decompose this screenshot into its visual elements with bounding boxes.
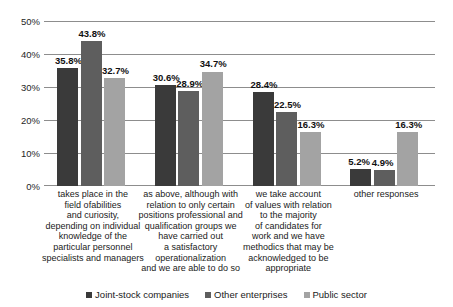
gridline-30 — [44, 87, 435, 88]
y-axis-tick-30: 30% — [2, 83, 40, 93]
bar — [155, 85, 176, 186]
bar — [57, 68, 78, 186]
bar — [178, 91, 199, 186]
bar-value-label: 16.3% — [298, 120, 325, 130]
legend-swatch-icon — [205, 292, 211, 298]
bar-value-label: 34.7% — [200, 59, 227, 69]
category-label-line: appropriate — [234, 263, 344, 274]
chart-legend: Joint-stock companiesOther enterprisesPu… — [0, 288, 453, 302]
bar-chart: 50% 40% 30% 20% 10% 0% 35.8%43.8%32.7%30… — [0, 0, 453, 307]
bar-value-label: 35.8% — [55, 56, 82, 66]
x-axis-category-label: takes place in thefield ofabilitiesand c… — [38, 189, 148, 263]
category-label-line: and we are able to do so — [136, 263, 246, 274]
legend-item[interactable]: Other enterprises — [205, 290, 287, 300]
legend-item[interactable]: Public sector — [304, 290, 367, 300]
category-label-line: field ofabilities — [38, 200, 148, 211]
category-label-line: to the majority — [234, 210, 344, 221]
legend-item[interactable]: Joint-stock companies — [86, 290, 189, 300]
legend-label: Public sector — [313, 290, 367, 300]
bar-value-label: 22.5% — [274, 100, 301, 110]
legend-swatch-icon — [304, 292, 310, 298]
legend-label: Joint-stock companies — [95, 290, 189, 300]
x-axis-category-labels: takes place in thefield ofabilitiesand c… — [44, 189, 435, 281]
bar — [202, 72, 223, 187]
bar — [397, 132, 418, 186]
gridline-40 — [44, 54, 435, 55]
bar — [81, 41, 102, 186]
category-label-line: of values with relation — [234, 200, 344, 211]
category-label-line: positions professional and — [136, 210, 246, 221]
gridline-20 — [44, 120, 435, 121]
category-label-line: as above, although with — [136, 189, 246, 200]
category-label-line: depending on individual — [38, 221, 148, 232]
y-axis-tick-40: 40% — [2, 50, 40, 60]
legend-swatch-icon — [86, 292, 92, 298]
y-axis-tick-50: 50% — [2, 17, 40, 27]
bar — [104, 78, 125, 186]
bar — [374, 170, 395, 186]
category-label-line: specialists and managers — [38, 253, 148, 264]
category-label-line: particular personnel — [38, 242, 148, 253]
x-axis-category-label: other responses — [331, 189, 441, 200]
category-label-line: acknowledged to be — [234, 253, 344, 264]
bar-value-label: 32.7% — [102, 66, 129, 76]
x-axis-category-label: we take accountof values with relationto… — [234, 189, 344, 274]
category-label-line: we take account — [234, 189, 344, 200]
category-label-line: have carried out — [136, 231, 246, 242]
bar-value-label: 43.8% — [79, 29, 106, 39]
bar — [300, 132, 321, 186]
bar — [350, 169, 371, 186]
x-axis-category-label: as above, although withrelation to only … — [136, 189, 246, 274]
bar — [253, 92, 274, 186]
bar-value-label: 4.9% — [372, 158, 394, 168]
category-label-line: takes place in the — [38, 189, 148, 200]
category-label-line: qualification groups we — [136, 221, 246, 232]
bar-value-label: 28.9% — [176, 79, 203, 89]
bar-value-label: 16.3% — [395, 120, 422, 130]
legend-label: Other enterprises — [214, 290, 287, 300]
bar — [276, 112, 297, 186]
category-label-line: and curiosity, — [38, 210, 148, 221]
y-axis-tick-10: 10% — [2, 149, 40, 159]
category-label-line: knowledge of the — [38, 231, 148, 242]
bar-value-label: 5.2% — [348, 157, 370, 167]
category-label-line: relation to only certain — [136, 200, 246, 211]
category-label-line: a satisfactory — [136, 242, 246, 253]
category-label-line: of candidates for — [234, 221, 344, 232]
category-label-line: operationalization — [136, 253, 246, 264]
bar-value-label: 28.4% — [251, 80, 278, 90]
plot-area: 35.8%43.8%32.7%30.6%28.9%34.7%28.4%22.5%… — [44, 21, 435, 186]
y-axis-tick-0: 0% — [2, 182, 40, 192]
gridline-10 — [44, 153, 435, 154]
category-label-line: methodics that may be — [234, 242, 344, 253]
category-label-line: work and we have — [234, 231, 344, 242]
y-axis-tick-20: 20% — [2, 116, 40, 126]
category-label-line: other responses — [331, 189, 441, 200]
gridline-50 — [44, 21, 435, 22]
